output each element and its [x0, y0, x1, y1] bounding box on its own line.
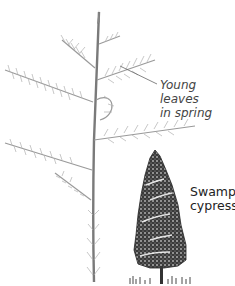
swamp-cypress-line2: cypress [190, 199, 235, 213]
young-leaves-line2: in spring [160, 106, 235, 120]
tree-silhouette [130, 150, 190, 284]
young-leaves-label: Young leaves in spring [160, 78, 235, 120]
tree-trunk [160, 266, 163, 284]
young-leaves-line1: Young leaves [160, 78, 235, 106]
swamp-cypress-line1: Swamp [190, 185, 235, 199]
swamp-cypress-label: Swamp cypress [190, 185, 235, 213]
swamp-cypress-illustration: Young leaves in spring Swamp cypress [0, 0, 235, 286]
botanical-drawing [0, 0, 235, 286]
